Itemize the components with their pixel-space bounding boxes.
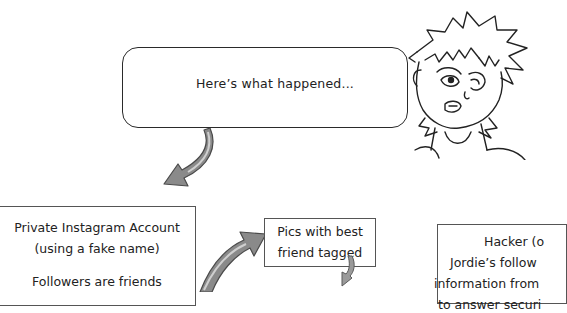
pics-line-1: Pics with best	[265, 221, 375, 242]
private-account-box: Private Instagram Account (using a fake …	[0, 206, 196, 306]
speech-bubble-text: Here’s what happened...	[196, 76, 354, 91]
arrow-pics-down	[338, 254, 362, 290]
account-title: Private Instagram Account	[0, 217, 195, 238]
hacker-box: Hacker (o Jordie’s follow information fr…	[437, 224, 567, 304]
hacker-line-1: Hacker (o	[438, 231, 566, 252]
account-followers: Followers are friends	[0, 271, 195, 292]
character-illustration	[405, 0, 545, 160]
arrow-bubble-to-account	[148, 128, 218, 190]
account-subtitle: (using a fake name)	[0, 238, 195, 259]
speech-bubble: Here’s what happened...	[122, 47, 408, 128]
hacker-line-4: to answer securi	[438, 294, 566, 313]
hacker-line-3: information from	[434, 273, 566, 294]
arrow-account-to-pics	[196, 222, 268, 292]
hacker-line-2: Jordie’s follow	[438, 252, 566, 273]
